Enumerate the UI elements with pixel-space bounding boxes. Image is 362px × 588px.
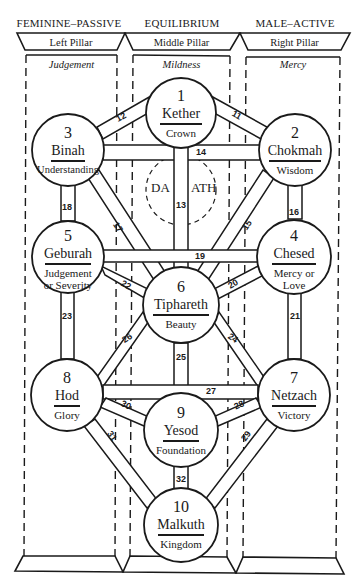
divider xyxy=(153,314,209,316)
sephirah-number: 5 xyxy=(28,228,108,244)
sephirah-kether: 1 Kether Crown xyxy=(141,88,221,139)
sephirah-number: 8 xyxy=(27,370,107,386)
left-pillar-polarity: FEMININE–PASSIVE xyxy=(4,17,134,29)
sephirah-name: Tiphareth xyxy=(136,298,226,312)
path-13: 13 xyxy=(176,200,186,210)
sephirah-name: Binah xyxy=(28,144,108,158)
sephirah-name: Geburah xyxy=(28,247,108,261)
sephirah-name: Yesod xyxy=(141,424,221,438)
sephirah-chokmah: 2 Chokmah Wisdom xyxy=(255,125,335,176)
daath-label-left: DA xyxy=(151,180,170,196)
path-18: 18 xyxy=(62,202,72,212)
sephirah-translation: Wisdom xyxy=(255,165,335,176)
path-14: 14 xyxy=(196,147,206,157)
sephirah-translation: Mercy or xyxy=(254,268,334,279)
daath-label-right: ATH xyxy=(191,180,216,196)
sephirah-netzach: 7 Netzach Victory xyxy=(254,370,334,421)
right-pillar-quality: Mercy xyxy=(246,59,340,70)
divider xyxy=(272,405,316,407)
divider xyxy=(163,440,199,442)
sephirah-name: Netzach xyxy=(254,389,334,403)
sephirah-translation-line2: or Severity xyxy=(28,280,108,291)
divider xyxy=(45,263,91,265)
path-25: 25 xyxy=(176,352,186,362)
sephirah-number: 3 xyxy=(28,125,108,141)
divider xyxy=(269,160,321,162)
sephirah-yesod: 9 Yesod Foundation xyxy=(141,405,221,456)
divider xyxy=(51,160,85,162)
sephirah-name: Kether xyxy=(141,107,221,121)
right-pillar-polarity: MALE–ACTIVE xyxy=(240,17,350,29)
sephirah-number: 4 xyxy=(254,228,334,244)
sephirah-name: Malkuth xyxy=(141,518,221,532)
sephirah-number: 7 xyxy=(254,370,334,386)
sephirah-name: Chesed xyxy=(254,247,334,261)
path-21: 21 xyxy=(290,311,300,321)
path-19: 19 xyxy=(195,251,205,261)
sephirah-translation-line2: Love xyxy=(254,280,334,291)
sephirah-translation: Victory xyxy=(254,410,334,421)
middle-pillar-quality: Mildness xyxy=(133,59,230,70)
sephirah-geburah: 5 Geburah Judgement or Severity xyxy=(28,228,108,291)
sephirah-number: 10 xyxy=(141,499,221,515)
sephirah-number: 1 xyxy=(141,88,221,104)
divider xyxy=(272,263,316,265)
left-pillar-name: Left Pillar xyxy=(25,37,117,48)
sephirah-name: Hod xyxy=(27,389,107,403)
sephirah-name: Chokmah xyxy=(255,144,335,158)
divider xyxy=(54,405,80,407)
sephirah-translation: Kingdom xyxy=(141,539,221,550)
divider xyxy=(158,534,204,536)
right-pillar-base xyxy=(236,557,344,574)
sephirah-number: 9 xyxy=(141,405,221,421)
path-16: 16 xyxy=(289,207,299,217)
divider xyxy=(160,123,202,125)
left-pillar-base xyxy=(15,556,123,572)
path-32: 32 xyxy=(176,474,186,484)
path-27: 27 xyxy=(206,386,216,396)
middle-pillar-name: Middle Pillar xyxy=(133,37,230,48)
sephirah-translation: Understanding xyxy=(28,165,108,176)
left-pillar-quality: Judgement xyxy=(26,59,117,70)
sephirah-translation: Foundation xyxy=(141,445,221,456)
path-23: 23 xyxy=(62,311,72,321)
sephirah-chesed: 4 Chesed Mercy or Love xyxy=(254,228,334,291)
sephirah-translation: Judgement xyxy=(28,268,108,279)
sephirah-hod: 8 Hod Glory xyxy=(27,370,107,421)
sephirah-malkuth: 10 Malkuth Kingdom xyxy=(141,499,221,550)
sephirah-translation: Glory xyxy=(27,410,107,421)
sephirah-translation: Beauty xyxy=(136,319,226,330)
middle-pillar-polarity: EQUILIBRIUM xyxy=(132,17,232,29)
right-pillar-name: Right Pillar xyxy=(248,37,341,48)
sephirah-translation: Crown xyxy=(141,128,221,139)
sephirah-number: 6 xyxy=(136,279,226,295)
sephirah-binah: 3 Binah Understanding xyxy=(28,125,108,175)
sephirah-number: 2 xyxy=(255,125,335,141)
sephirah-tiphareth: 6 Tiphareth Beauty xyxy=(136,279,226,330)
